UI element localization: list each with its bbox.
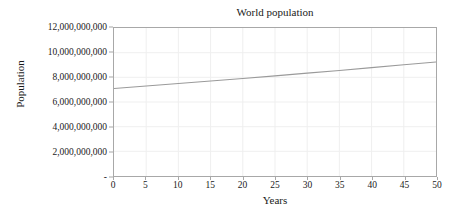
x-axis-title: Years — [113, 194, 437, 207]
series-polyline — [114, 62, 436, 89]
y-tick-mark — [109, 152, 113, 153]
x-tick-mark — [372, 177, 373, 180]
y-tick-mark — [109, 127, 113, 128]
x-tick-mark — [178, 177, 179, 180]
x-tick-mark — [340, 177, 341, 180]
y-axis-tick-labels: -2,000,000,0004,000,000,0006,000,000,000… — [0, 27, 107, 177]
y-tick-mark — [109, 52, 113, 53]
y-tick-mark — [109, 27, 113, 28]
x-tick-mark — [405, 177, 406, 180]
y-tick-label: - — [0, 172, 107, 182]
x-tick-mark — [145, 177, 146, 180]
x-tick-label: 0 — [111, 180, 116, 191]
x-tick-label: 10 — [173, 180, 183, 191]
y-tick-label: 8,000,000,000 — [0, 72, 107, 82]
x-tick-label: 50 — [432, 180, 442, 191]
chart-title: World population — [113, 6, 437, 19]
y-tick-label: 4,000,000,000 — [0, 122, 107, 132]
x-tick-label: 25 — [270, 180, 280, 191]
data-series-line — [114, 28, 436, 176]
y-tick-label: 10,000,000,000 — [0, 47, 107, 57]
x-axis-tick-labels: 05101520253035404550 — [113, 180, 437, 194]
y-tick-label: 12,000,000,000 — [0, 22, 107, 32]
x-tick-mark — [210, 177, 211, 180]
x-tick-label: 45 — [400, 180, 410, 191]
x-tick-label: 5 — [143, 180, 148, 191]
x-tick-mark — [437, 177, 438, 180]
x-tick-label: 30 — [303, 180, 313, 191]
y-tick-label: 2,000,000,000 — [0, 147, 107, 157]
x-tick-mark — [243, 177, 244, 180]
x-tick-label: 15 — [205, 180, 215, 191]
x-tick-label: 40 — [367, 180, 377, 191]
x-tick-label: 20 — [238, 180, 248, 191]
plot-area — [113, 27, 437, 177]
chart-figure: World population Population -2,000,000,0… — [0, 0, 454, 214]
x-tick-mark — [307, 177, 308, 180]
y-tick-label: 6,000,000,000 — [0, 97, 107, 107]
x-tick-label: 35 — [335, 180, 345, 191]
x-tick-mark — [275, 177, 276, 180]
x-tick-mark — [113, 177, 114, 180]
y-tick-mark — [109, 77, 113, 78]
y-tick-mark — [109, 102, 113, 103]
